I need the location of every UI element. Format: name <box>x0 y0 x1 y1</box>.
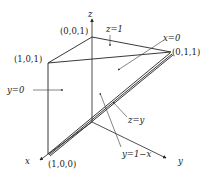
zy-pointer <box>113 102 127 117</box>
plane-zy-label: z=y <box>127 115 145 125</box>
edge-001-101 <box>48 37 92 63</box>
x0-pointer <box>118 40 164 70</box>
vertex-001-label: (0,0,1) <box>60 26 88 36</box>
vertex-101-label: (1,0,1) <box>14 54 42 64</box>
plane-x0-label: x=0 <box>163 33 181 43</box>
plane-y1mx-label: y=1−x <box>121 149 151 159</box>
edge-001-011 <box>92 37 171 52</box>
edge-100-011-c <box>50 55 173 156</box>
edge-100-011-b <box>49 54 172 155</box>
y1mx-pointer <box>100 93 121 147</box>
y-axis-label: y <box>177 156 183 166</box>
edge-100-011-a <box>48 53 170 154</box>
plane-pointers <box>33 35 164 147</box>
vertex-100-label: (1,0,0) <box>48 159 76 169</box>
plane-z1-label: z=1 <box>105 24 123 34</box>
tetrahedron-region-diagram: z x y (0,0,1) (1,0,1) (0,1,1) (1,0,0) z=… <box>0 0 207 175</box>
x-axis-label: x <box>25 156 30 166</box>
plane-y0-label: y=0 <box>6 85 25 95</box>
axes <box>40 19 166 160</box>
edge-101-011 <box>48 52 171 63</box>
z-axis-label: z <box>87 9 93 19</box>
region-edges <box>48 37 173 156</box>
vertex-011-label: (0,1,1) <box>172 47 200 57</box>
